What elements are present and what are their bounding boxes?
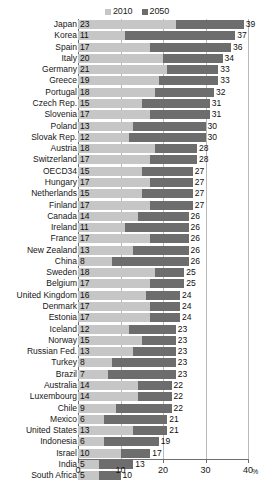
- bar-track: 1527: [78, 189, 248, 198]
- value-label-2050: 27: [195, 201, 204, 210]
- bar-rows: Japan2339Korea1137Spain1736Italy2034Germ…: [0, 19, 274, 482]
- value-label-2050: 26: [191, 223, 200, 232]
- chart-row: Estonia1724: [0, 312, 274, 323]
- x-axis-tick-mark: [163, 459, 164, 463]
- chart-row: OECD341527: [0, 166, 274, 177]
- bar-segment-2050: [155, 268, 185, 277]
- chart-row: China826: [0, 256, 274, 267]
- category-label: Finland: [0, 200, 77, 211]
- bar-segment-2050: [146, 291, 180, 300]
- legend-label: 2050: [150, 7, 170, 16]
- value-label-2010: 17: [80, 302, 89, 311]
- chart-row: Spain1736: [0, 42, 274, 53]
- value-label-2050: 23: [178, 325, 187, 334]
- value-label-2010: 18: [80, 88, 89, 97]
- chart-row: Slovak Rep.1230: [0, 132, 274, 143]
- value-label-2010: 23: [80, 20, 89, 29]
- chart-row: Belgium1725: [0, 278, 274, 289]
- value-label-2050: 27: [195, 178, 204, 187]
- chart-row: Portugal1832: [0, 87, 274, 98]
- bar-track: 1321: [78, 426, 248, 435]
- x-axis-tick-label: 0: [63, 465, 93, 476]
- bar-segment-2050: [150, 201, 193, 210]
- bar-segment-2050: [129, 133, 206, 142]
- bar-track: 1527: [78, 167, 248, 176]
- bar-segment-2050: [133, 246, 188, 255]
- bar-segment-2050: [150, 302, 180, 311]
- bar-segment-2010: [78, 268, 155, 277]
- bar-track: 2133: [78, 65, 248, 74]
- bar-segment-2050: [150, 313, 180, 322]
- category-label: Russian Fed.: [0, 346, 77, 357]
- bar-segment-2050: [133, 347, 176, 356]
- bar-segment-2050: [163, 54, 223, 63]
- bar-track: 1230: [78, 133, 248, 142]
- bar-track: 1422: [78, 392, 248, 401]
- bar-segment-2050: [150, 279, 184, 288]
- value-label-2050: 19: [161, 437, 170, 446]
- value-label-2010: 12: [80, 133, 89, 142]
- bar-segment-2010: [78, 144, 155, 153]
- bar-segment-2050: [176, 20, 244, 29]
- x-axis: % 010203040: [0, 459, 274, 483]
- bar-segment-2050: [142, 189, 193, 198]
- value-label-2050: 27: [195, 189, 204, 198]
- value-label-2010: 21: [80, 65, 89, 74]
- category-label: Italy: [0, 53, 77, 64]
- bar-segment-2050: [155, 144, 198, 153]
- category-label: Estonia: [0, 312, 77, 323]
- bar-segment-2050: [150, 234, 188, 243]
- bar-segment-2050: [142, 99, 210, 108]
- bar-track: 1137: [78, 31, 248, 40]
- value-label-2010: 17: [80, 313, 89, 322]
- legend-swatch-icon: [142, 9, 148, 15]
- chart-legend: 20102050: [0, 5, 274, 18]
- value-label-2050: 30: [208, 122, 217, 131]
- chart-row: Canada1426: [0, 211, 274, 222]
- value-label-2050: 26: [191, 234, 200, 243]
- bar-track: 1624: [78, 291, 248, 300]
- category-label: Netherlands: [0, 188, 77, 199]
- x-axis-tick-label: 40: [233, 465, 263, 476]
- bar-track: 1422: [78, 381, 248, 390]
- chart-row: Korea1137: [0, 30, 274, 41]
- chart-row: Norway1523: [0, 335, 274, 346]
- legend-entry: 2050: [142, 7, 170, 16]
- chart-row: France1726: [0, 233, 274, 244]
- value-label-2010: 17: [80, 43, 89, 52]
- category-label: Korea: [0, 30, 77, 41]
- category-label: Brazil: [0, 369, 77, 380]
- chart-row: Mexico621: [0, 414, 274, 425]
- bar-track: 1728: [78, 155, 248, 164]
- value-label-2010: 12: [80, 325, 89, 334]
- value-label-2010: 17: [80, 234, 89, 243]
- value-label-2010: 8: [80, 358, 85, 367]
- category-label: Germany: [0, 64, 77, 75]
- bar-track: 1330: [78, 122, 248, 131]
- chart-row: Russian Fed.1323: [0, 346, 274, 357]
- category-label: Spain: [0, 42, 77, 53]
- bar-segment-2050: [121, 449, 151, 458]
- bar-track: 1223: [78, 325, 248, 334]
- value-label-2050: 21: [169, 426, 178, 435]
- value-label-2050: 25: [186, 268, 195, 277]
- value-label-2010: 15: [80, 336, 89, 345]
- bar-segment-2050: [104, 437, 159, 446]
- value-label-2050: 17: [152, 449, 161, 458]
- bar-track: 2034: [78, 54, 248, 63]
- value-label-2010: 19: [80, 76, 89, 85]
- value-label-2010: 15: [80, 99, 89, 108]
- value-label-2050: 24: [182, 313, 191, 322]
- bar-segment-2050: [142, 336, 176, 345]
- value-label-2010: 11: [80, 223, 89, 232]
- x-axis-tick-label: 20: [148, 465, 178, 476]
- category-label: Hungary: [0, 177, 77, 188]
- value-label-2050: 30: [208, 133, 217, 142]
- bar-track: 1126: [78, 223, 248, 232]
- bar-track: 1727: [78, 178, 248, 187]
- value-label-2050: 23: [178, 358, 187, 367]
- value-label-2010: 14: [80, 381, 89, 390]
- value-label-2010: 17: [80, 110, 89, 119]
- x-axis-tick-mark: [121, 459, 122, 463]
- bar-segment-2050: [150, 178, 193, 187]
